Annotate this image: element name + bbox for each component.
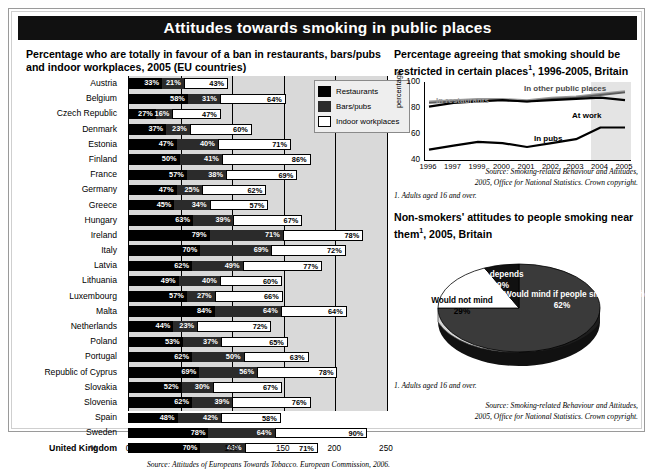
bar-segment-indoor-workplaces[interactable]: 78% [257,367,337,378]
bar-segment-bars-pubs[interactable]: 64% [208,428,274,439]
bar-segment-value: 23% [172,124,187,135]
bar-segment-value: 63% [290,353,305,364]
bar-segment-bars-pubs[interactable]: 64% [215,306,281,317]
x-axis-tick-100: 100 [224,444,238,453]
pie-label-it-depends-value: 9% [497,281,509,290]
bar-segment-bars-pubs[interactable]: 37% [183,337,221,348]
legend-swatch-bars-pubs [318,101,331,112]
bar-row-label: Estonia [18,137,122,152]
bar-segment-restaurants[interactable]: 57% [128,170,187,181]
bar-segment-restaurants[interactable]: 57% [128,291,187,302]
bar-segment-restaurants[interactable]: 69% [128,367,199,378]
legend-item-restaurants: Restaurants [318,84,405,99]
bar-segment-restaurants[interactable]: 63% [128,215,193,226]
bar-segment-indoor-workplaces[interactable]: 71% [218,139,291,150]
bar-segment-indoor-workplaces[interactable]: 47% [172,109,221,120]
bar-segment-indoor-workplaces[interactable]: 60% [220,276,282,287]
bar-segment-restaurants[interactable]: 48% [128,413,178,424]
bar-segment-value: 67% [263,383,278,394]
bar-segment-restaurants[interactable]: 27% [128,109,156,120]
bar-segment-bars-pubs[interactable]: 23% [173,321,197,332]
bar-segment-indoor-workplaces[interactable]: 64% [220,94,286,105]
bar-segment-value: 31% [202,94,217,105]
bar-segment-indoor-workplaces[interactable]: 64% [281,306,347,317]
bar-segment-restaurants[interactable]: 62% [128,261,192,272]
bar-row-label: Luxembourg [18,289,122,304]
bar-segment-indoor-workplaces[interactable]: 63% [244,352,309,363]
bar-segment-indoor-workplaces[interactable]: 65% [221,337,288,348]
bar-segment-indoor-workplaces[interactable]: 62% [202,185,266,196]
bar-row-label: Hungary [18,213,122,228]
bar-segment-restaurants[interactable]: 47% [128,185,177,196]
bar-segment-indoor-workplaces[interactable]: 72% [271,245,345,256]
bar-segment-indoor-workplaces[interactable]: 72% [197,321,271,332]
bar-row: Germany47%25%62% [18,182,390,197]
bar-row: Netherlands44%23%72% [18,319,390,334]
bar-segment-restaurants[interactable]: 70% [128,245,200,256]
bar-segment-indoor-workplaces[interactable]: 86% [222,154,311,165]
bar-segment-indoor-workplaces[interactable]: 67% [233,215,302,226]
bar-segment-indoor-workplaces[interactable]: 90% [275,428,368,439]
bar-segment-restaurants[interactable]: 52% [128,382,182,393]
bar-segment-bars-pubs[interactable]: 16% [156,109,173,120]
bar-segment-restaurants[interactable]: 62% [128,352,192,363]
bar-segment-indoor-workplaces[interactable]: 77% [243,261,322,272]
bar-segment-restaurants[interactable]: 58% [128,94,188,105]
x-axis-tick-150: 150 [276,444,290,453]
bar-segment-restaurants[interactable]: 44% [128,321,173,332]
bar-segment-bars-pubs[interactable]: 40% [177,139,218,150]
bar-row-segments: 53%37%65% [128,337,288,348]
bar-row-segments: 62%49%77% [128,261,322,272]
bar-segment-bars-pubs[interactable]: 38% [187,170,226,181]
bar-segment-bars-pubs[interactable]: 50% [192,352,244,363]
bar-segment-restaurants[interactable]: 50% [128,154,180,165]
bar-segment-value: 44% [156,321,171,332]
bar-segment-value: 77% [303,262,318,273]
line-chart-plot-area [424,82,631,161]
bar-segment-indoor-workplaces[interactable]: 76% [232,397,310,408]
line-annotation-at-work: At work [572,111,601,120]
bar-segment-bars-pubs[interactable]: 31% [188,94,220,105]
bar-segment-indoor-workplaces[interactable]: 43% [184,78,228,89]
bar-segment-value: 64% [263,306,278,317]
title-banner: Attitudes towards smoking in public plac… [18,16,637,40]
bar-segment-restaurants[interactable]: 78% [128,428,208,439]
bar-segment-restaurants[interactable]: 53% [128,337,183,348]
pie-label-it-depends-text: It depends [483,270,524,279]
bar-segment-indoor-workplaces[interactable]: 58% [221,413,281,424]
bar-row-label: Finland [18,152,122,167]
bar-segment-restaurants[interactable]: 33% [128,78,162,89]
bar-segment-bars-pubs[interactable]: 56% [199,367,257,378]
bar-segment-bars-pubs[interactable]: 69% [200,245,271,256]
bar-segment-indoor-workplaces[interactable]: 67% [213,382,282,393]
bar-segment-bars-pubs[interactable]: 34% [174,200,209,211]
bar-segment-restaurants[interactable]: 49% [128,276,179,287]
bar-segment-indoor-workplaces[interactable]: 57% [210,200,269,211]
bar-segment-restaurants[interactable]: 62% [128,397,192,408]
bar-segment-restaurants[interactable]: 47% [128,139,177,150]
bar-segment-bars-pubs[interactable]: 71% [210,230,283,241]
bar-segment-indoor-workplaces[interactable]: 66% [215,291,283,302]
bar-segment-indoor-workplaces[interactable]: 78% [283,230,363,241]
bar-segment-value: 72% [327,246,342,257]
bar-segment-bars-pubs[interactable]: 39% [192,397,232,408]
bar-segment-bars-pubs[interactable]: 49% [192,261,243,272]
x-axis-tick-200: 200 [328,444,342,453]
bar-segment-bars-pubs[interactable]: 39% [193,215,233,226]
line-chart-source-line-1: Source: Smoking-related Behaviour and At… [408,167,638,178]
bar-segment-bars-pubs[interactable]: 40% [179,276,220,287]
bar-segment-bars-pubs[interactable]: 41% [180,154,222,165]
bar-segment-value: 40% [200,139,215,150]
bar-segment-bars-pubs[interactable]: 42% [178,413,221,424]
bar-segment-bars-pubs[interactable]: 21% [162,78,184,89]
bar-segment-indoor-workplaces[interactable]: 69% [226,170,297,181]
bar-segment-bars-pubs[interactable]: 25% [177,185,203,196]
bar-segment-restaurants[interactable]: 79% [128,230,210,241]
bar-segment-restaurants[interactable]: 84% [128,306,215,317]
bar-segment-bars-pubs[interactable]: 23% [166,124,190,135]
bar-segment-restaurants[interactable]: 45% [128,200,174,211]
bar-segment-restaurants[interactable]: 37% [128,124,166,135]
bar-segment-indoor-workplaces[interactable]: 60% [190,124,252,135]
bar-segment-bars-pubs[interactable]: 30% [182,382,213,393]
bar-segment-bars-pubs[interactable]: 27% [187,291,215,302]
